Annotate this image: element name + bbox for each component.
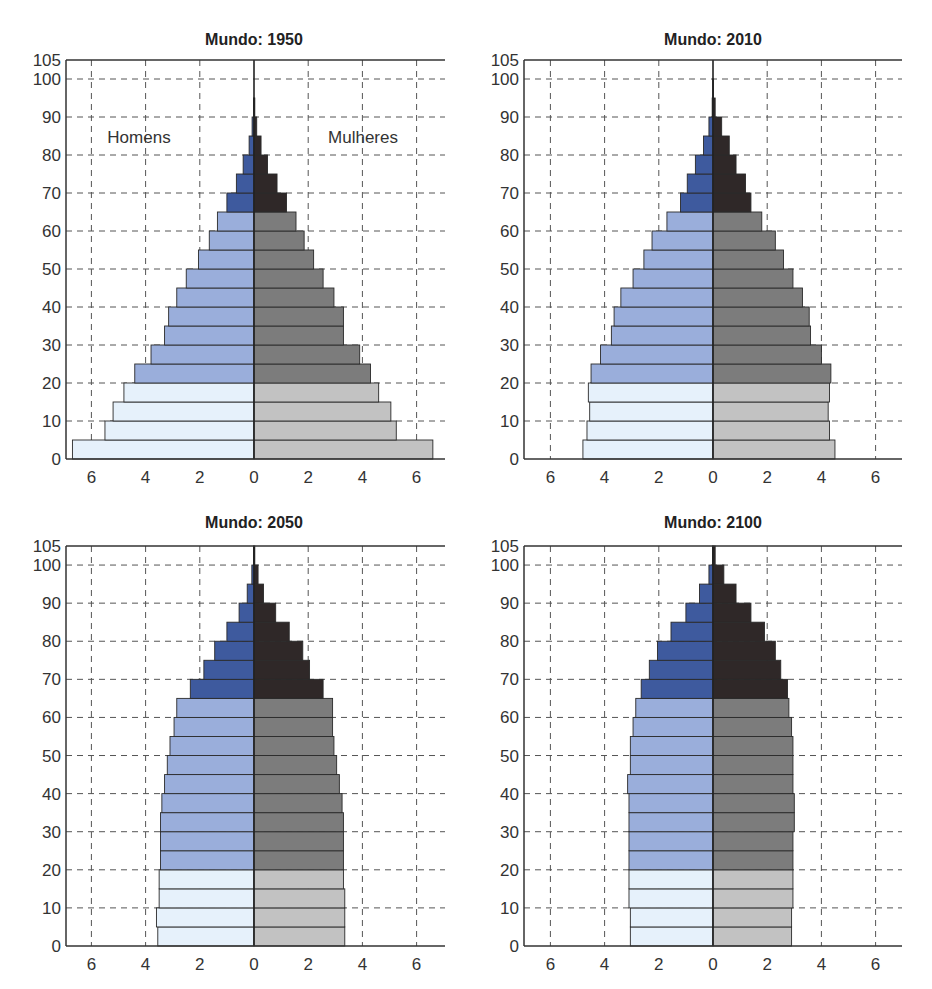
y-tick-label: 0	[510, 937, 519, 956]
y-tick-label: 80	[500, 632, 519, 651]
bar-men	[636, 698, 713, 717]
pyramid-bars	[628, 546, 795, 946]
y-tick-label: 105	[491, 537, 519, 556]
bar-men	[630, 756, 713, 775]
bar-men	[699, 584, 713, 603]
y-tick-label: 60	[500, 708, 519, 727]
y-tick-label: 70	[500, 670, 519, 689]
bar-women	[713, 736, 793, 755]
bar-women	[713, 756, 793, 775]
x-tick-label: 2	[762, 955, 771, 974]
x-tick-label: 6	[546, 955, 555, 974]
bar-women	[713, 775, 793, 794]
y-tick-label: 90	[500, 594, 519, 613]
bar-women	[713, 717, 792, 736]
y-tick-label: 10	[500, 899, 519, 918]
bar-men	[649, 660, 713, 679]
bar-men	[628, 775, 713, 794]
pyramid-plot: 01020304050607080901001056420246	[0, 0, 932, 989]
y-tick-label: 40	[500, 785, 519, 804]
bar-women	[713, 641, 775, 660]
bar-women	[713, 622, 764, 641]
x-tick-label: 4	[817, 955, 826, 974]
bar-women	[713, 565, 724, 584]
bar-women	[713, 603, 751, 622]
bar-women	[713, 660, 781, 679]
bar-men	[629, 851, 713, 870]
bar-women	[713, 584, 736, 603]
bar-men	[629, 832, 713, 851]
bar-men	[657, 641, 713, 660]
population-pyramids-figure: Mundo: 1950 0102030405060708090100105642…	[0, 0, 932, 989]
x-tick-label: 2	[654, 955, 663, 974]
bar-men	[629, 889, 713, 908]
bar-women	[713, 813, 794, 832]
bar-men	[629, 870, 713, 889]
bar-women	[713, 889, 793, 908]
bar-women	[713, 870, 793, 889]
pyramid-panel-2100: Mundo: 2100 0102030405060708090100105642…	[0, 0, 932, 989]
bar-men	[630, 736, 713, 755]
bar-women	[713, 851, 793, 870]
bar-men	[629, 813, 713, 832]
y-tick-label: 100	[491, 556, 519, 575]
bar-men	[671, 622, 713, 641]
y-tick-label: 50	[500, 747, 519, 766]
bar-women	[713, 927, 792, 946]
bar-men	[686, 603, 713, 622]
bar-women	[713, 698, 789, 717]
x-tick-label: 0	[708, 955, 717, 974]
bar-men	[633, 717, 713, 736]
bar-men	[641, 679, 713, 698]
x-tick-label: 4	[600, 955, 609, 974]
bar-women	[713, 679, 788, 698]
bar-women	[713, 794, 794, 813]
bar-men	[629, 794, 713, 813]
y-tick-label: 30	[500, 823, 519, 842]
y-tick-label: 20	[500, 861, 519, 880]
x-tick-label: 6	[871, 955, 880, 974]
bar-women	[713, 832, 793, 851]
bar-men	[630, 927, 713, 946]
bar-women	[713, 908, 792, 927]
bar-men	[630, 908, 713, 927]
